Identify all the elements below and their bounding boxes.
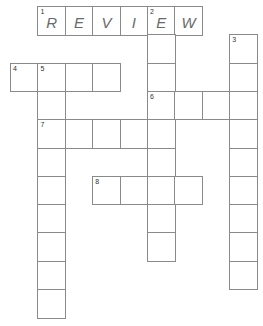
crossword-cell[interactable]: [92, 119, 121, 149]
crossword-cell[interactable]: V: [92, 6, 121, 36]
crossword-grid: 1REVI2EW634578: [0, 0, 263, 326]
clue-number: 4: [13, 64, 17, 73]
crossword-cell[interactable]: [65, 119, 94, 149]
crossword-cell[interactable]: [174, 91, 203, 121]
crossword-cell[interactable]: [229, 119, 258, 149]
crossword-cell[interactable]: [147, 119, 176, 149]
crossword-cell[interactable]: [120, 176, 149, 206]
crossword-cell[interactable]: [229, 261, 258, 291]
crossword-cell[interactable]: [229, 176, 258, 206]
clue-number: 5: [40, 64, 44, 73]
cell-letter: E: [148, 14, 175, 32]
crossword-cell[interactable]: [37, 91, 66, 121]
crossword-cell[interactable]: 3: [229, 34, 258, 64]
crossword-cell[interactable]: [37, 232, 66, 262]
crossword-cell[interactable]: [229, 232, 258, 262]
crossword-cell[interactable]: [37, 148, 66, 178]
crossword-cell[interactable]: [120, 119, 149, 149]
crossword-cell[interactable]: 1R: [37, 6, 66, 36]
clue-number: 8: [95, 177, 99, 186]
clue-number: 7: [40, 120, 44, 129]
crossword-cell[interactable]: [65, 63, 94, 93]
crossword-cell[interactable]: [147, 232, 176, 262]
cell-letter: R: [38, 14, 65, 32]
crossword-cell[interactable]: 2E: [147, 6, 176, 36]
crossword-cell[interactable]: [147, 63, 176, 93]
crossword-cell[interactable]: [229, 63, 258, 93]
crossword-cell[interactable]: [147, 34, 176, 64]
crossword-cell[interactable]: [37, 289, 66, 319]
crossword-cell[interactable]: [147, 204, 176, 234]
crossword-cell[interactable]: [147, 176, 176, 206]
crossword-cell[interactable]: [37, 176, 66, 206]
clue-number: 3: [232, 35, 236, 44]
cell-letter: E: [66, 14, 93, 32]
cell-letter: I: [121, 14, 148, 32]
cell-letter: W: [175, 14, 202, 32]
crossword-cell[interactable]: [147, 148, 176, 178]
crossword-cell[interactable]: 6: [147, 91, 176, 121]
crossword-cell[interactable]: [229, 204, 258, 234]
crossword-cell[interactable]: [37, 204, 66, 234]
crossword-cell[interactable]: E: [65, 6, 94, 36]
crossword-cell[interactable]: [202, 91, 231, 121]
crossword-cell[interactable]: [229, 148, 258, 178]
crossword-cell[interactable]: 8: [92, 176, 121, 206]
crossword-cell[interactable]: W: [174, 6, 203, 36]
crossword-cell[interactable]: [37, 261, 66, 291]
clue-number: 6: [150, 92, 154, 101]
cell-letter: V: [93, 14, 120, 32]
crossword-cell[interactable]: 4: [10, 63, 39, 93]
crossword-cell[interactable]: [174, 176, 203, 206]
crossword-cell[interactable]: [229, 91, 258, 121]
crossword-cell[interactable]: 7: [37, 119, 66, 149]
crossword-cell[interactable]: 5: [37, 63, 66, 93]
crossword-cell[interactable]: [92, 63, 121, 93]
crossword-cell[interactable]: I: [120, 6, 149, 36]
